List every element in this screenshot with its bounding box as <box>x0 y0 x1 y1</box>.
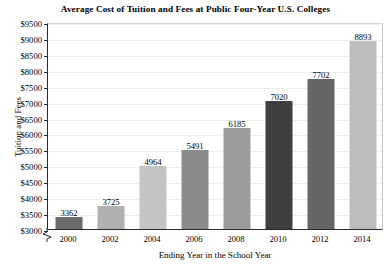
y-axis-tick-label: $3500 <box>21 210 42 220</box>
x-axis-tick-label: 2006 <box>173 234 215 244</box>
bar-group: 7702 <box>300 24 342 229</box>
y-axis-tick-label: $4500 <box>21 178 42 188</box>
bar-group: 4964 <box>132 24 174 229</box>
y-axis-tick-label: $9500 <box>21 19 42 29</box>
x-axis-tick-label: 2012 <box>299 234 341 244</box>
bar-group: 5491 <box>174 24 216 229</box>
bar <box>224 128 251 229</box>
x-axis-tick-label: 2004 <box>131 234 173 244</box>
y-axis-tick-label: $8000 <box>21 67 42 77</box>
bar <box>56 217 83 229</box>
bar-value-label: 8893 <box>354 32 371 42</box>
bar-value-label: 6185 <box>228 119 245 129</box>
x-axis-tick-label: 2010 <box>257 234 299 244</box>
y-axis-tick-label: $4000 <box>21 194 42 204</box>
y-axis-tick <box>44 231 48 232</box>
y-axis-tick-label: $6500 <box>21 115 42 125</box>
x-axis-tick-label: 2008 <box>215 234 257 244</box>
bar-value-label: 7020 <box>270 92 287 102</box>
y-axis-tick-label: $5500 <box>21 146 42 156</box>
bar-group: 6185 <box>216 24 258 229</box>
bar <box>140 166 167 229</box>
bar <box>308 79 335 229</box>
y-axis-tick-label: $9000 <box>21 35 42 45</box>
x-axis-tick-label: 2002 <box>89 234 131 244</box>
bar-value-label: 4964 <box>144 157 161 167</box>
plot-area: $3000$3500$4000$4500$5000$5500$6000$6500… <box>47 23 383 230</box>
y-axis-tick-label: $7000 <box>21 99 42 109</box>
bar <box>266 101 293 229</box>
bar <box>182 150 209 229</box>
x-axis-label: Ending Year in the School Year <box>47 250 383 260</box>
x-axis-tick-label: 2000 <box>47 234 89 244</box>
y-axis-tick-label: $8500 <box>21 51 42 61</box>
y-axis-label: Tuition and Fees <box>13 57 23 197</box>
bar-group: 3725 <box>90 24 132 229</box>
y-axis-tick-label: $6000 <box>21 130 42 140</box>
bar-value-label: 3725 <box>102 197 119 207</box>
y-axis-tick-label: $7500 <box>21 83 42 93</box>
bar-group: 8893 <box>342 24 384 229</box>
bar-value-label: 7702 <box>312 70 329 80</box>
bar-value-label: 5491 <box>186 141 203 151</box>
y-axis-tick-label: $3000 <box>21 226 42 236</box>
bar-group: 3362 <box>48 24 90 229</box>
bar-chart-figure: Average Cost of Tuition and Fees at Publ… <box>0 0 391 274</box>
y-axis-tick-label: $5000 <box>21 162 42 172</box>
bar-value-label: 3362 <box>60 208 77 218</box>
chart-title: Average Cost of Tuition and Fees at Publ… <box>0 4 391 15</box>
bar <box>98 206 125 229</box>
bar <box>350 41 377 229</box>
bar-group: 7020 <box>258 24 300 229</box>
x-axis-tick-label: 2014 <box>341 234 383 244</box>
